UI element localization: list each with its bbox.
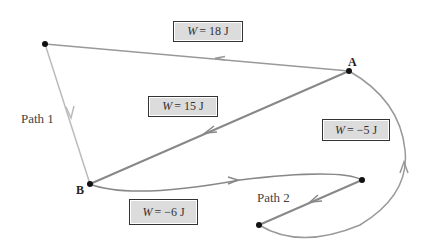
segment-a-to-topleft [45, 44, 349, 71]
work-value: = 15 J [174, 99, 203, 114]
point-topleft [42, 41, 48, 47]
work-value: = −5 J [347, 123, 377, 138]
work-symbol: W [162, 99, 172, 114]
work-symbol: W [335, 123, 345, 138]
work-symbol: W [142, 205, 152, 220]
segment-b-to-right [90, 174, 362, 191]
work-box-18j: W= 18 J [173, 21, 243, 42]
work-value: = 18 J [199, 24, 228, 39]
point-path2-bottom [256, 222, 262, 228]
segment-bottom-to-a [259, 71, 405, 238]
point-b-label: B [76, 183, 84, 198]
work-box-minus6j: W= −6 J [129, 199, 198, 225]
point-b [87, 181, 93, 187]
path1-label: Path 1 [21, 111, 54, 127]
point-path2-right [359, 177, 365, 183]
work-box-15j: W= 15 J [148, 96, 218, 117]
path2-label: Path 2 [257, 190, 290, 206]
work-value: = −6 J [154, 205, 184, 220]
point-a-label: A [348, 55, 357, 70]
work-box-minus5j: W= −5 J [322, 119, 390, 141]
segment-a-to-b [90, 71, 349, 184]
work-symbol: W [187, 24, 197, 39]
